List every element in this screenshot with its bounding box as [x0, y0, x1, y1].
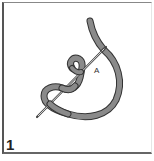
step-number: 1: [6, 137, 14, 152]
thread-overlap-icon: [50, 68, 81, 114]
thread-icon: [44, 21, 120, 117]
point-a-label: A: [94, 67, 99, 75]
needle-and-thread-illustration: [0, 0, 154, 161]
